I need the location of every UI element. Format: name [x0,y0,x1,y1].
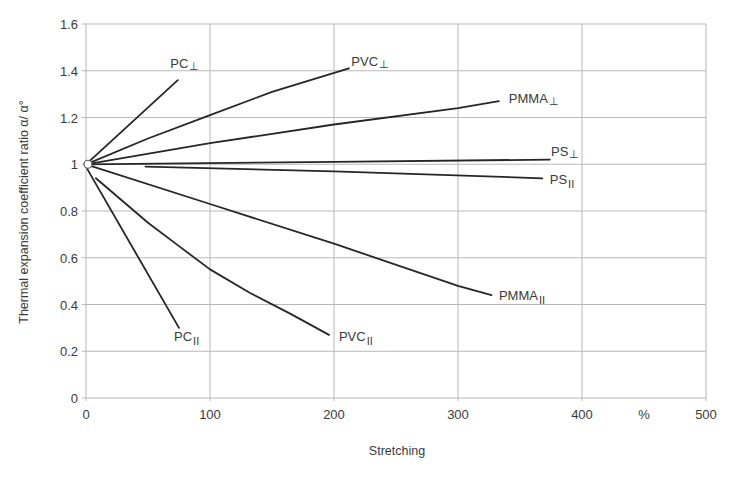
x-tick-label: 100 [199,407,221,422]
series-line [86,101,499,164]
y-axis-label: Thermal expansion coefficient ratio α/ α… [17,100,31,324]
gridlines [82,24,706,401]
line-chart: 00.20.40.60.811.21.41.6 0100200300400500… [0,0,733,477]
x-tick-label: 500 [695,407,717,422]
series-labels: PC⊥PVC⊥PMMA⊥PS⊥PSIIPMMAIIPVCIIPCII [170,54,579,347]
series-label: PVCII [339,329,373,347]
y-tick-label: 0.6 [60,251,78,266]
series-label: PCII [174,329,199,347]
x-axis-unit: % [638,407,650,422]
series-label: PVC⊥ [351,54,389,70]
y-axis-ticks: 00.20.40.60.811.21.41.6 [60,17,78,406]
y-tick-label: 0.2 [60,344,78,359]
x-tick-label: 200 [323,407,345,422]
y-tick-label: 0.8 [60,204,78,219]
series-lines [86,68,550,335]
chart: 00.20.40.60.811.21.41.6 0100200300400500… [0,0,733,477]
series-line [86,164,492,295]
series-label: PS⊥ [551,144,579,160]
x-axis-ticks: 0100200300400500 [82,407,716,422]
origin-marker [84,160,92,168]
y-tick-label: 1.6 [60,17,78,32]
y-tick-label: 0.4 [60,298,78,313]
y-tick-label: 1.4 [60,64,78,79]
series-label: PMMA⊥ [509,91,559,107]
series-line [86,160,550,165]
x-tick-label: 300 [447,407,469,422]
x-axis-label: Stretching [369,444,425,458]
series-line [96,178,329,335]
y-tick-label: 1.2 [60,111,78,126]
x-tick-label: 400 [571,407,593,422]
series-line [146,167,543,179]
series-label: PSII [550,172,574,190]
series-line [86,68,349,164]
series-label: PC⊥ [170,56,199,72]
y-tick-label: 1 [71,157,78,172]
x-tick-label: 0 [82,407,89,422]
series-label: PMMAII [499,288,545,306]
y-tick-label: 0 [71,391,78,406]
